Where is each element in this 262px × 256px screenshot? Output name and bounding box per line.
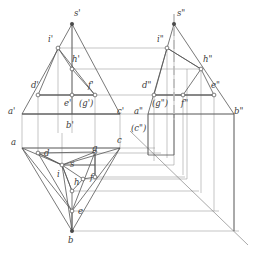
label-c-front: c' xyxy=(117,106,124,116)
label-h-top: h xyxy=(74,177,79,187)
label-d-front: d' xyxy=(31,80,39,90)
label-s-top: s xyxy=(70,159,75,169)
label-s-front: s' xyxy=(74,8,81,18)
label-c-top: c xyxy=(117,135,122,145)
label-a-front: a' xyxy=(8,106,15,116)
label-g-side: (g") xyxy=(152,98,168,108)
label-i-front: i' xyxy=(48,34,53,44)
label-d-side: d" xyxy=(142,80,151,90)
label-f-front: f' xyxy=(87,80,93,90)
label-e-front: e' xyxy=(64,98,71,108)
drawing-sheet: s' i' h' d' f' e' (g') a' c' b' s" i" h"… xyxy=(0,0,262,256)
projection-drawing: s' i' h' d' f' e' (g') a' c' b' s" i" h"… xyxy=(0,0,262,256)
label-s-side: s" xyxy=(177,8,185,18)
label-e-side: e" xyxy=(211,80,220,90)
label-f-side: f" xyxy=(180,98,188,108)
label-b-side: b" xyxy=(234,106,243,116)
top-view-labels: a c d g s i h f e b xyxy=(11,135,122,245)
label-a-side: a" xyxy=(134,106,143,116)
label-h-front: h' xyxy=(72,54,80,64)
label-g-top: g xyxy=(92,143,98,153)
label-b-front: b' xyxy=(66,120,74,130)
label-h-side: h" xyxy=(203,54,212,64)
label-g-front: (g') xyxy=(79,98,93,108)
label-i-side: i" xyxy=(157,34,164,44)
side-view-outline xyxy=(148,24,234,231)
label-i-top: i xyxy=(57,169,60,179)
label-d-top: d xyxy=(44,148,50,158)
label-a-top: a xyxy=(11,137,16,147)
label-e-top: e xyxy=(78,206,83,216)
label-c-side: (c") xyxy=(131,123,146,133)
label-b-top: b xyxy=(68,235,73,245)
